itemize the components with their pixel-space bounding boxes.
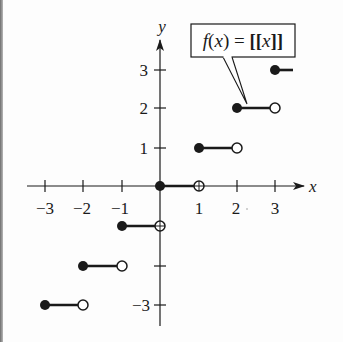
open-dot-icon [78, 300, 88, 310]
x-tick-label: 1 [195, 199, 204, 218]
y-tick-label: 3 [140, 61, 149, 80]
closed-dot-icon [155, 181, 165, 191]
x-axis-label: x [308, 177, 317, 196]
scan-speck [246, 208, 248, 210]
open-dot-icon [117, 261, 127, 271]
x-tick-label: −1 [111, 199, 129, 218]
closed-dot-icon [270, 65, 280, 75]
callout-label: f(x) = [[x]] [203, 30, 283, 52]
x-axis: −3 −2 −1 1 2 3 x [27, 177, 317, 218]
closed-dot-icon [194, 143, 204, 153]
closed-dot-icon [78, 261, 88, 271]
open-points [78, 103, 280, 310]
x-tick-label: 3 [271, 199, 280, 218]
y-tick-label: −3 [132, 296, 150, 315]
figure-page: −3 −2 −1 1 2 3 x 3 2 1 −3 y [0, 0, 343, 342]
step-function-plot: −3 −2 −1 1 2 3 x 3 2 1 −3 y [0, 0, 343, 342]
y-axis-label: y [156, 17, 166, 36]
x-tick-label: −2 [73, 199, 91, 218]
y-tick-label: 2 [140, 99, 149, 118]
open-dot-icon [270, 103, 280, 113]
open-dot-icon [232, 143, 242, 153]
function-callout: f(x) = [[x]] [191, 24, 295, 104]
x-tick-label: −3 [36, 199, 54, 218]
closed-dot-icon [40, 300, 50, 310]
y-tick-label: 1 [140, 139, 149, 158]
closed-dot-icon [232, 103, 242, 113]
y-axis: 3 2 1 −3 y [132, 17, 166, 326]
x-tick-label: 2 [232, 199, 241, 218]
callout-pointer [223, 57, 247, 104]
closed-dot-icon [117, 221, 127, 231]
